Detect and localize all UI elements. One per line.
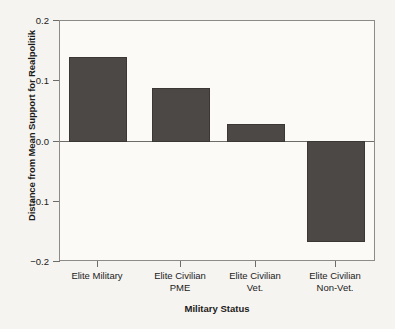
chart-figure: Distance from Mean Support for Realpolit… xyxy=(0,0,395,329)
y-tick-label: −0.2 xyxy=(9,256,49,267)
x-tick-mark xyxy=(255,261,256,267)
y-tick-label: 0.2 xyxy=(9,15,49,26)
x-tick-mark xyxy=(335,261,336,267)
bar-elite-military xyxy=(69,57,127,142)
x-tick-mark xyxy=(97,261,98,267)
bar-elite-civilian-pme xyxy=(152,88,210,142)
y-tick-label: 0.1 xyxy=(9,75,49,86)
x-tick-label-elite-civilian-non-vet: Elite Civilian Non-Vet. xyxy=(285,270,385,293)
y-tick-mark xyxy=(53,261,60,262)
bar-elite-civilian-non-vet xyxy=(307,141,365,242)
y-axis-title: Distance from Mean Support for Realpolit… xyxy=(26,0,37,256)
y-tick-label: 0.0 xyxy=(9,136,49,147)
x-tick-label-line: Elite Civilian xyxy=(285,270,385,282)
bar-elite-civilian-vet xyxy=(227,124,285,142)
x-tick-mark xyxy=(180,261,181,267)
x-tick-label-line: Non-Vet. xyxy=(285,282,385,294)
plot-area xyxy=(59,20,375,261)
x-axis-title: Military Status xyxy=(59,303,375,314)
y-tick-label: −0.1 xyxy=(9,196,49,207)
plot-inner xyxy=(60,21,374,260)
